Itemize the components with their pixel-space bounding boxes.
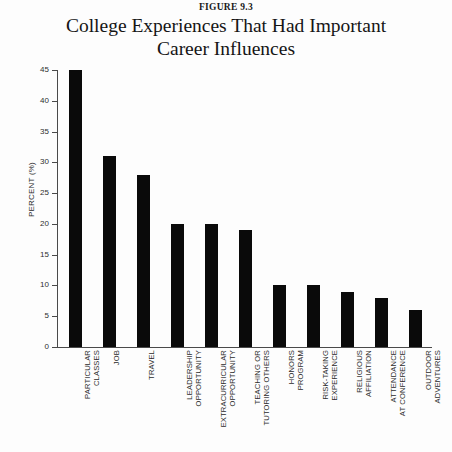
y-axis-tick-label: 25 bbox=[0, 188, 49, 197]
bar bbox=[137, 175, 150, 347]
y-axis-tick-label: 0 bbox=[0, 342, 49, 351]
x-axis-labels: PARTICULARCLASSESJOBTRAVELLEADERSHIPOPPO… bbox=[58, 350, 432, 450]
x-axis-tick-label-line: TUTORING OTHERS bbox=[263, 350, 272, 446]
y-axis-tick-label: 40 bbox=[0, 96, 49, 105]
bar bbox=[171, 224, 184, 347]
x-axis-tick-label-line: CLASSES bbox=[92, 350, 101, 446]
figure-title: College Experiences That Had Important C… bbox=[26, 14, 426, 60]
figure-container: FIGURE 9.3 College Experiences That Had … bbox=[0, 0, 452, 452]
x-axis-tick-label-line: OPPORTUNITY bbox=[229, 350, 238, 446]
bar bbox=[409, 310, 422, 347]
bar bbox=[341, 292, 354, 347]
bar bbox=[273, 285, 286, 347]
y-axis-tick-label: 20 bbox=[0, 219, 49, 228]
y-axis-tick-label: 15 bbox=[0, 250, 49, 259]
y-axis-tick-label: 5 bbox=[0, 311, 49, 320]
x-axis-tick-label: OUTDOORADVENTURES bbox=[425, 350, 442, 446]
x-axis-tick-label: ATTENDANCEAT CONFERENCE bbox=[390, 350, 407, 446]
bar bbox=[103, 156, 116, 347]
bar bbox=[69, 70, 82, 347]
bar bbox=[239, 230, 252, 347]
bar-series bbox=[58, 70, 432, 347]
figure-title-line-2: Career Influences bbox=[26, 37, 426, 60]
bar bbox=[205, 224, 218, 347]
x-axis-tick-label: RISK-TAKINGEXPERIENCE bbox=[322, 350, 339, 446]
x-axis-tick-label-line: EXPERIENCE bbox=[331, 350, 340, 446]
bar bbox=[307, 285, 320, 347]
x-axis-tick-label: LEADERSHIPOPPORTUNITY bbox=[186, 350, 203, 446]
x-axis-tick-label-line: OUTDOOR bbox=[425, 350, 434, 446]
x-axis-tick-label: HONORSPROGRAM bbox=[288, 350, 305, 446]
y-axis-tick-label: 30 bbox=[0, 157, 49, 166]
x-axis-tick-label: PARTICULARCLASSES bbox=[84, 350, 101, 446]
x-axis-tick-label-line: TRAVEL bbox=[148, 350, 157, 446]
figure-number: FIGURE 9.3 bbox=[0, 2, 452, 12]
x-axis-tick-label: TEACHING ORTUTORING OTHERS bbox=[254, 350, 271, 446]
x-axis-tick-label: TRAVEL bbox=[148, 350, 157, 446]
x-axis-tick-label-line: AFFILIATION bbox=[365, 350, 374, 446]
y-axis-tick-label: 10 bbox=[0, 280, 49, 289]
x-axis-tick-label-line: JOB bbox=[113, 350, 122, 446]
x-axis-tick-label-line: OPPORTUNITY bbox=[195, 350, 204, 446]
y-axis-tick-label: 45 bbox=[0, 65, 49, 74]
x-axis-tick-label: RELIGIOUSAFFILIATION bbox=[356, 350, 373, 446]
x-axis-tick-label-line: ADVENTURES bbox=[433, 350, 442, 446]
x-axis-tick-label-line: PROGRAM bbox=[297, 350, 306, 446]
figure-title-line-1: College Experiences That Had Important bbox=[26, 14, 426, 37]
x-axis-tick-label: EXTRACURRICULAROPPORTUNITY bbox=[220, 350, 237, 446]
x-axis-tick-label-line: PARTICULAR bbox=[84, 350, 93, 446]
bar bbox=[375, 298, 388, 347]
x-axis-tick-label-line: AT CONFERENCE bbox=[399, 350, 408, 446]
x-axis-tick-label: JOB bbox=[113, 350, 122, 446]
y-axis-tick-label: 35 bbox=[0, 127, 49, 136]
